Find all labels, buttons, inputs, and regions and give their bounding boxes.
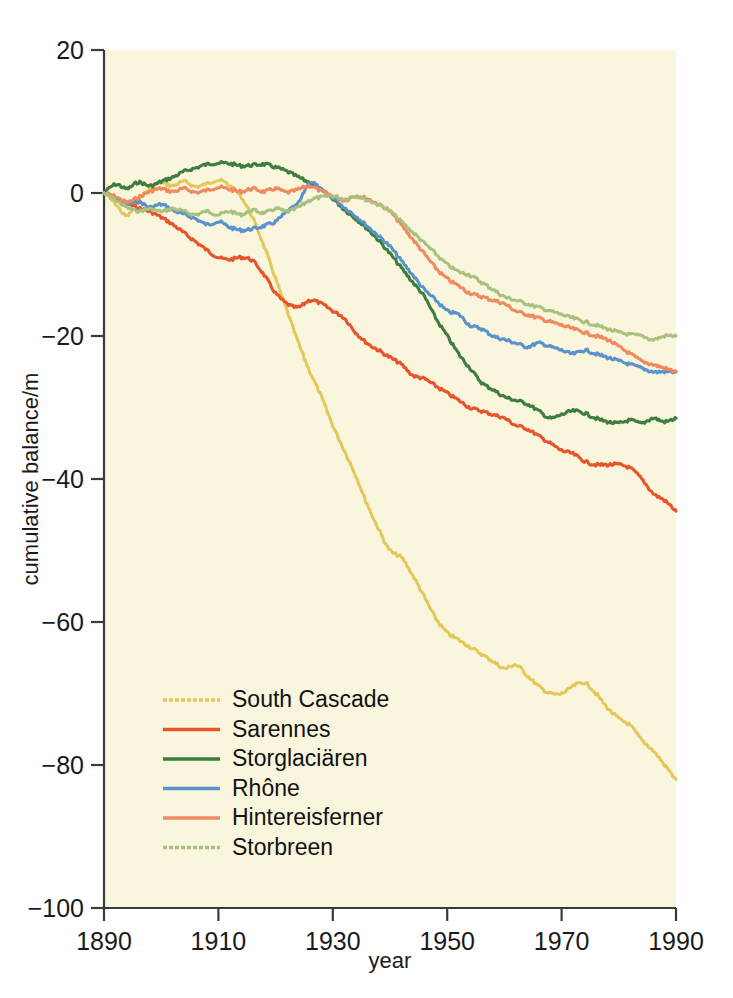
legend-label-rh-ne[interactable]: Rhône	[232, 775, 300, 801]
y-tick-label: −40	[42, 465, 84, 493]
y-axis-title: cumulative balance/m	[18, 373, 43, 586]
legend-label-storbreen[interactable]: Storbreen	[232, 834, 333, 860]
y-tick-label: −80	[42, 751, 84, 779]
x-tick-label: 1910	[191, 927, 247, 955]
x-tick-label: 1930	[305, 927, 361, 955]
y-tick-label: −100	[28, 894, 84, 922]
y-tick-label: −20	[42, 322, 84, 350]
x-tick-label: 1950	[419, 927, 475, 955]
y-axis-tick-group	[91, 50, 104, 908]
plot-area-background	[104, 50, 676, 908]
y-tick-label: 0	[70, 179, 84, 207]
legend-label-storglaci-ren[interactable]: Storglaciären	[232, 745, 368, 771]
y-tick-label: 20	[56, 36, 84, 64]
cumulative-balance-line-chart: 200−20−40−60−80−100 18901910193019501970…	[0, 0, 733, 998]
y-tick-label: −60	[42, 608, 84, 636]
legend-label-hintereisferner[interactable]: Hintereisferner	[232, 804, 383, 830]
x-tick-label: 1890	[76, 927, 132, 955]
figure-container: 200−20−40−60−80−100 18901910193019501970…	[0, 0, 733, 998]
legend-label-south-cascade[interactable]: South Cascade	[232, 686, 389, 712]
legend-label-sarennes[interactable]: Sarennes	[232, 716, 330, 742]
x-axis-title: year	[369, 948, 412, 973]
x-tick-label: 1990	[648, 927, 704, 955]
x-axis-tick-group	[104, 908, 676, 921]
x-tick-label: 1970	[534, 927, 590, 955]
